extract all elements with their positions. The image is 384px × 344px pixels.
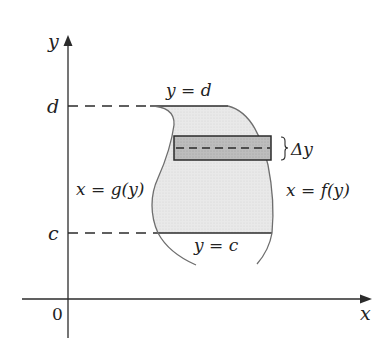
left-curve-label: x = g(y) (76, 179, 144, 199)
delta-y-label: Δy (290, 139, 313, 159)
d-tick-label: d (47, 95, 59, 117)
bottom-boundary-label: y = c (193, 235, 239, 255)
y-axis-label: y (47, 30, 59, 52)
c-tick-label: c (48, 222, 59, 244)
origin-label: 0 (52, 304, 63, 324)
x-axis-label: x (360, 302, 371, 324)
y-axis-arrow-icon (64, 35, 73, 46)
right-curve-label: x = f(y) (286, 180, 350, 200)
top-boundary-label: y = d (165, 80, 212, 100)
diagram-canvas: y x 0 d c y = d y = c x = g(y) x = f(y) … (0, 0, 384, 344)
shaded-region (150, 106, 273, 233)
delta-y-brace (281, 137, 288, 160)
